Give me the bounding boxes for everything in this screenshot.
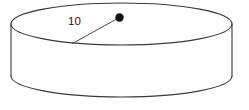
cylinder-diagram-svg: 10 <box>0 0 249 110</box>
radius-label: 10 <box>68 15 81 27</box>
cylinder-base-front-arc <box>11 76 232 97</box>
center-point-dot <box>115 13 123 21</box>
cylinder-figure-canvas: 10 <box>0 0 249 110</box>
cylinder-top-face-ellipse <box>11 3 232 45</box>
